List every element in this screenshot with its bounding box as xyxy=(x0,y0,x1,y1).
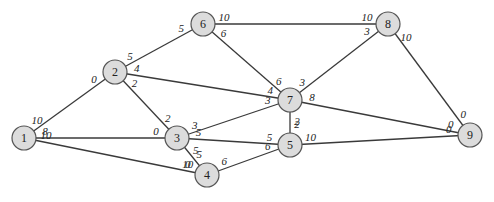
edge-7-8 xyxy=(290,24,388,100)
node-label: 9 xyxy=(467,128,473,142)
node-4: 4 xyxy=(195,163,219,187)
node-label: 1 xyxy=(21,131,27,145)
edge-weight-label: 3 xyxy=(363,25,370,37)
edge-weight-label: 10 xyxy=(219,11,231,23)
edge-2-3 xyxy=(115,72,177,138)
node-3: 3 xyxy=(165,126,189,150)
edge-weight-label: 3 xyxy=(264,94,271,106)
edge-weight-label: 8 xyxy=(309,91,315,103)
edge-weight-label: 6 xyxy=(221,27,227,39)
node-6: 6 xyxy=(191,12,215,36)
node-2: 2 xyxy=(103,60,127,84)
edge-weight-label: 0 xyxy=(446,123,452,135)
node-label: 7 xyxy=(287,93,293,107)
node-9: 9 xyxy=(458,123,482,147)
edge-weight-label: 5 xyxy=(196,126,202,138)
edge-weight-label: 0 xyxy=(460,108,466,120)
edge-1-2 xyxy=(24,72,115,138)
node-label: 8 xyxy=(385,17,391,31)
node-label: 4 xyxy=(204,168,210,182)
edge-weight-label: 2 xyxy=(294,118,300,130)
edge-weight-label: 0 xyxy=(153,125,159,137)
node-label: 6 xyxy=(200,17,206,31)
edge-weight-labels: 1008010105544223355556601010663380221001… xyxy=(31,11,466,170)
edge-weight-label: 6 xyxy=(265,140,271,152)
edge-weight-label: 6 xyxy=(222,155,228,167)
node-7: 7 xyxy=(278,88,302,112)
edge-2-7 xyxy=(115,72,290,100)
node-1: 1 xyxy=(12,126,36,150)
node-8: 8 xyxy=(376,12,400,36)
edge-2-6 xyxy=(115,24,203,72)
edge-weight-label: 5 xyxy=(196,148,202,160)
edge-weight-label: 2 xyxy=(132,77,138,89)
node-5: 5 xyxy=(278,133,302,157)
network-graph: 1008010105544223355556601010663380221001… xyxy=(0,0,494,202)
edge-7-9 xyxy=(290,100,470,135)
edge-weight-label: 10 xyxy=(40,129,52,141)
edge-weight-label: 4 xyxy=(134,62,140,74)
edge-weight-label: 10 xyxy=(305,131,317,143)
node-label: 3 xyxy=(174,131,180,145)
edge-weight-label: 10 xyxy=(31,114,43,126)
edge-weight-label: 6 xyxy=(276,75,282,87)
node-label: 2 xyxy=(112,65,118,79)
edge-weight-label: 10 xyxy=(362,11,374,23)
edge-weight-label: 5 xyxy=(178,22,184,34)
edge-4-5 xyxy=(207,145,290,175)
node-label: 5 xyxy=(287,138,293,152)
edge-weight-label: 5 xyxy=(127,50,133,62)
edge-5-9 xyxy=(290,135,470,145)
graph-edges xyxy=(24,24,470,175)
edge-weight-label: 0 xyxy=(185,158,191,170)
edge-weight-label: 10 xyxy=(401,31,413,43)
edge-weight-label: 3 xyxy=(299,76,306,88)
edge-weight-label: 0 xyxy=(91,73,97,85)
edge-weight-label: 2 xyxy=(165,112,171,124)
